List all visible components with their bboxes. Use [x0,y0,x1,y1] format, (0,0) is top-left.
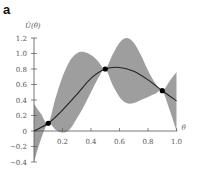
x-tick-label: 0.2 [57,138,68,146]
observation-point [160,88,165,93]
observation-point [103,66,108,71]
y-tick-label: 0.2 [16,112,27,120]
y-tick-label: 0.6 [16,81,28,89]
observation-point [46,121,51,126]
band-area [34,38,177,162]
axes [31,38,178,162]
x-tick-label: 1.0 [171,138,182,146]
y-tick-label: 0.4 [16,97,28,105]
x-tick-label: 0.6 [114,138,126,146]
y-tick-label: 0 [23,128,27,136]
chart: −0.4−0.200.20.40.60.81.01.20.20.40.60.81… [0,0,197,175]
y-tick-label: −0.2 [10,143,27,151]
x-axis-title: θ [182,124,187,132]
y-tick-label: 1.2 [16,35,27,43]
y-axis-title: Ū(θ) [25,21,41,30]
x-tick-label: 0.8 [142,138,153,146]
uncertainty-band [34,38,177,162]
y-tick-label: −0.4 [10,159,28,167]
y-tick-label: 1.0 [16,50,27,58]
y-tick-label: 0.8 [16,66,27,74]
x-tick-label: 0.4 [85,138,97,146]
